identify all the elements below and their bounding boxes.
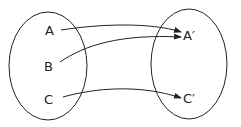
element-a-prime: A′ <box>183 28 195 43</box>
element-b: B <box>44 59 53 74</box>
arrow-a-to-a-prime <box>61 25 181 32</box>
element-c: C <box>44 92 53 107</box>
arrow-b-to-a-prime <box>60 37 181 62</box>
mapping-diagram: A B C A′ C′ <box>0 0 241 127</box>
element-c-prime: C′ <box>183 91 195 106</box>
element-a: A <box>45 23 54 38</box>
